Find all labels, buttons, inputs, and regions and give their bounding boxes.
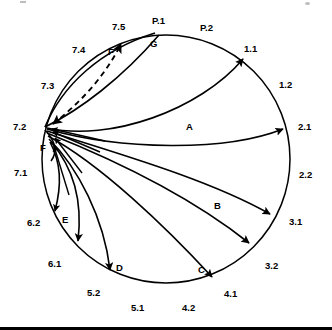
arc-label-F-top: F xyxy=(108,47,114,57)
arc-label-E: E xyxy=(62,215,68,225)
arc-label-C: C xyxy=(198,265,205,275)
arc-label-F-hub: F xyxy=(40,143,46,153)
perimeter-label-1-2: 1.2 xyxy=(279,80,292,90)
arc-label-D: D xyxy=(116,263,123,273)
perimeter-label-3-1: 3.1 xyxy=(289,217,302,227)
perimeter-label-4-1: 4.1 xyxy=(224,289,237,299)
perimeter-label-7-2: 7.2 xyxy=(13,122,26,132)
perimeter-label-7-5: 7.5 xyxy=(112,22,125,32)
outer-circle xyxy=(42,35,290,283)
perimeter-label-6-2: 6.2 xyxy=(27,218,40,228)
perimeter-label-5-2: 5.2 xyxy=(87,288,100,298)
perimeter-label-3-2: 3.2 xyxy=(265,261,278,271)
diagram-canvas: 7.5 P.1 P.2 7.4 1.1 7.3 1.2 7.2 2.1 7.1 … xyxy=(0,0,332,330)
perimeter-label-7-3: 7.3 xyxy=(41,81,54,91)
perimeter-label-P-2: P.2 xyxy=(200,23,213,33)
perimeter-label-7-4: 7.4 xyxy=(72,45,85,55)
perimeter-label-P-1: P.1 xyxy=(152,16,165,26)
arc-label-A: A xyxy=(186,122,193,132)
arc-7-4-path xyxy=(45,33,155,127)
arc-diagram-graphic xyxy=(0,0,332,330)
arc-to-3-2-path xyxy=(47,133,249,243)
perimeter-label-6-1: 6.1 xyxy=(48,259,61,269)
perimeter-label-5-1: 5.1 xyxy=(131,303,144,313)
arc-to-1-1-path xyxy=(47,59,243,131)
perimeter-label-1-1: 1.1 xyxy=(244,44,257,54)
perimeter-label-2-1: 2.1 xyxy=(298,122,311,132)
arc-G-path xyxy=(45,35,159,127)
perimeter-label-2-2: 2.2 xyxy=(299,170,312,180)
perimeter-label-4-2: 4.2 xyxy=(182,303,195,313)
perimeter-label-7-1: 7.1 xyxy=(14,168,27,178)
arc-label-G: G xyxy=(150,39,157,49)
arc-label-B: B xyxy=(214,201,221,211)
